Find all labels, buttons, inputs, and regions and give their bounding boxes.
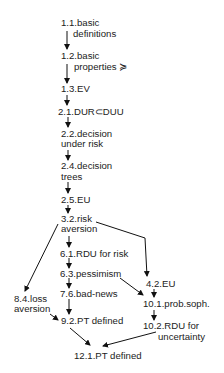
node-4-2: 4.2.EU	[146, 278, 175, 289]
node-7-6: 7.6.bad-news	[60, 288, 118, 299]
node-2-5: 2.5.EU	[61, 194, 90, 205]
dependency-diagram: 1.1.basic definitions 1.2.basic properti…	[0, 0, 224, 373]
node-1-2-line2: properties ≽	[74, 61, 127, 72]
node-3-2-line2: aversion	[61, 223, 97, 234]
edge-3-2-to-8-4	[25, 224, 58, 291]
node-2-4-line1: 2.4.decision	[61, 160, 112, 171]
node-6-1: 6.1.RDU for risk	[60, 248, 128, 259]
node-1-3: 1.3.EV	[61, 83, 90, 94]
node-1-2-line1: 1.2.basic	[61, 50, 99, 61]
node-12-1: 12.1.PT defined	[74, 350, 142, 361]
node-2-1: 2.1.DUR⊂DUU	[58, 106, 124, 117]
edge-9-2-to-12-1	[70, 328, 90, 345]
edge-6-3-to-10-1	[120, 278, 143, 295]
node-6-3: 6.3.pessimism	[60, 268, 121, 279]
node-2-4-line2: trees	[61, 171, 82, 182]
node-1-1-line2: definitions	[73, 28, 116, 39]
node-9-2: 9.2.PT defined	[61, 315, 123, 326]
edge-10-2-to-12-1	[103, 332, 156, 346]
node-8-4-line2: aversion	[14, 303, 50, 314]
node-1-1-line1: 1.1.basic	[61, 17, 99, 28]
node-2-2-line2: under risk	[61, 138, 103, 149]
node-10-2-line2: uncertainty	[158, 331, 205, 342]
node-10-2-line1: 10.2.RDU for	[143, 320, 199, 331]
edge-8-4-to-9-2	[50, 314, 58, 320]
node-10-1: 10.1.prob.soph.	[143, 298, 210, 309]
